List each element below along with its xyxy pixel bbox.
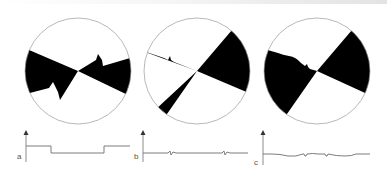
disk-b — [140, 18, 256, 124]
panel-label-a: a — [17, 152, 22, 161]
waveform-c — [263, 154, 370, 157]
disk-a — [22, 18, 134, 124]
trace-b: b — [134, 130, 248, 162]
waveform-b — [143, 151, 248, 155]
axis-arrow-b-icon — [141, 130, 146, 135]
panel-c: c — [254, 18, 376, 167]
panel-a: a — [17, 18, 134, 162]
axis-arrow-c-icon — [261, 130, 266, 135]
trace-c: c — [254, 130, 370, 167]
panel-label-c: c — [254, 158, 258, 167]
axis-arrow-a-icon — [24, 130, 29, 135]
panel-b: b — [134, 18, 256, 162]
waveform-a — [26, 146, 130, 153]
disk-c — [260, 18, 376, 124]
figure-canvas: a b — [0, 0, 387, 179]
trace-a: a — [17, 130, 130, 162]
panel-label-b: b — [134, 152, 139, 161]
